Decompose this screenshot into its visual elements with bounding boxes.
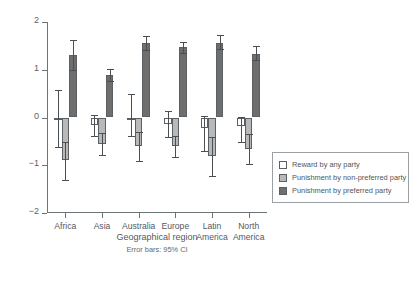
error-bar-cap [217,35,224,36]
error-bar-cap [180,53,187,54]
error-bar-stem [94,115,95,136]
chart-figure: Mean judgement of appropriateness 210−1−… [0,0,416,290]
y-tick: −1 [42,165,47,166]
error-bar-cap [136,132,143,133]
y-tick-label: 2 [34,15,39,25]
error-bar-cap [253,60,260,61]
y-tick: 2 [42,22,47,23]
y-tick-label: −1 [29,158,39,168]
error-bar-cap [209,176,216,177]
error-bar-cap [238,117,245,118]
bar-pref [142,43,150,117]
error-bar-stem [212,137,213,176]
error-bar-cap [128,94,135,95]
legend-swatch-preferred [279,187,287,195]
legend-item[interactable]: Reward by any party [279,158,402,171]
error-bar-cap [128,136,135,137]
error-bar-stem [183,42,184,53]
error-bar-stem [73,40,74,70]
error-bar-stem [139,132,140,162]
error-bar-cap [217,49,224,50]
bar-pref [179,47,187,117]
error-bar-cap [143,50,150,51]
legend-swatch-reward [279,161,287,169]
error-bar-stem [220,35,221,48]
x-tick [249,213,250,218]
error-bar-stem [131,94,132,136]
legend-swatch-nonpreferred [279,174,287,182]
legend-label: Punishment by preferred party [292,186,391,195]
error-bar-cap [172,157,179,158]
y-tick-label: 1 [34,63,39,73]
error-bar-cap [246,134,253,135]
y-tick-label: 0 [34,111,39,121]
error-bar-stem [256,46,257,60]
error-bar-stem [241,117,242,143]
x-tick [139,213,140,218]
error-bar-cap [99,155,106,156]
error-bar-stem [102,133,103,155]
error-bar-stem [65,142,66,179]
error-bar-cap [70,40,77,41]
y-tick: −2 [42,213,47,214]
x-axis-title: Geographical region [47,232,267,242]
bar-pref [216,43,224,118]
y-axis-line [47,22,48,213]
error-bar-cap [238,142,245,143]
y-tick: 1 [42,70,47,71]
plot-area: 210−1−2 AfricaAsiaAustraliaEuropeLatinAm… [47,22,267,213]
error-bar-cap [99,133,106,134]
legend-item[interactable]: Punishment by preferred party [279,184,402,197]
error-bar-cap [107,81,114,82]
error-bar-stem [204,116,205,151]
error-bar-cap [136,161,143,162]
legend-label: Reward by any party [292,160,360,169]
y-tick-label: −2 [29,206,39,216]
error-bar-cap [62,142,69,143]
x-tick [212,213,213,218]
error-bar-cap [165,111,172,112]
error-bar-cap [172,136,179,137]
error-bar-stem [146,36,147,49]
error-bar-cap [62,180,69,181]
x-tick [175,213,176,218]
error-bar-cap [253,46,260,47]
bar-pref [252,54,260,118]
error-bar-cap [70,70,77,71]
error-bar-cap [209,137,216,138]
error-bar-cap [143,36,150,37]
error-bar-cap [55,147,62,148]
error-bar-cap [91,115,98,116]
error-bar-cap [107,69,114,70]
error-bar-stem [110,69,111,81]
error-bar-stem [249,134,250,164]
error-bar-cap [180,42,187,43]
error-bar-stem [168,111,169,136]
error-bar-cap [246,164,253,165]
error-bar-cap [91,136,98,137]
error-bar-cap [55,90,62,91]
error-bar-cap [201,116,208,117]
x-axis-line [47,212,267,213]
error-bar-stem [175,136,176,157]
y-tick: 0 [42,118,47,119]
error-bar-stem [58,90,59,147]
legend-label: Punishment by non-preferred party [292,173,406,182]
x-tick [65,213,66,218]
error-bar-cap [165,137,172,138]
error-bar-note: Error bars: 95% CI [47,245,267,254]
legend: Reward by any party Punishment by non-pr… [272,152,409,203]
legend-item[interactable]: Punishment by non-preferred party [279,171,402,184]
x-tick [102,213,103,218]
error-bar-cap [201,151,208,152]
